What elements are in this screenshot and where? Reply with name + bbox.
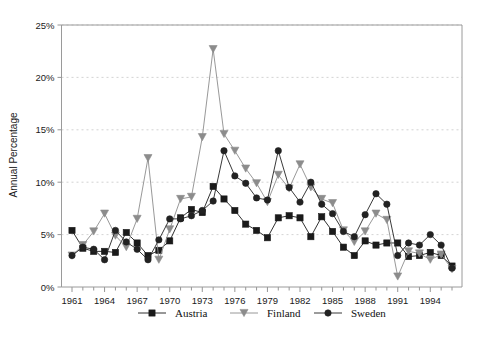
y-tick-label-10: 10% xyxy=(35,177,55,188)
data-point-austria-1984 xyxy=(319,214,325,220)
data-point-sweden-1989 xyxy=(373,191,379,197)
data-point-austria-1986 xyxy=(340,244,346,250)
data-point-austria-1985 xyxy=(329,228,335,234)
data-point-sweden-1983 xyxy=(308,179,314,185)
x-tick-label-1961: 1961 xyxy=(61,295,82,306)
data-point-sweden-1979 xyxy=(264,197,270,203)
x-tick-label-1991: 1991 xyxy=(387,295,408,306)
legend-label-finland: Finland xyxy=(267,307,301,319)
data-point-sweden-1967 xyxy=(134,246,140,252)
data-point-austria-1974 xyxy=(210,183,216,189)
data-point-austria-1988 xyxy=(362,238,368,244)
data-point-sweden-1988 xyxy=(362,211,368,217)
data-point-sweden-1992 xyxy=(405,240,411,246)
data-point-sweden-1972 xyxy=(188,213,194,219)
x-tick-label-1964: 1964 xyxy=(94,295,115,306)
data-point-sweden-1981 xyxy=(286,184,292,190)
annual-percentage-line-chart: 0%5%10%15%20%25% 19611964196719701973197… xyxy=(0,0,479,337)
data-point-sweden-1977 xyxy=(243,180,249,186)
data-point-austria-1989 xyxy=(373,242,379,248)
data-point-sweden-1987 xyxy=(351,233,357,239)
x-tick-label-1970: 1970 xyxy=(159,295,180,306)
data-point-sweden-1974 xyxy=(210,198,216,204)
data-point-sweden-1980 xyxy=(275,148,281,154)
data-point-austria-1990 xyxy=(384,240,390,246)
data-point-austria-1979 xyxy=(264,235,270,241)
data-point-sweden-1995 xyxy=(438,242,444,248)
data-point-sweden-1993 xyxy=(416,242,422,248)
x-tick-label-1982: 1982 xyxy=(289,295,310,306)
data-point-sweden-1985 xyxy=(329,210,335,216)
data-point-austria-1967 xyxy=(134,240,140,246)
data-point-austria-1987 xyxy=(351,252,357,258)
data-point-austria-1980 xyxy=(275,215,281,221)
data-point-austria-1975 xyxy=(221,196,227,202)
data-point-sweden-1969 xyxy=(156,237,162,243)
data-point-sweden-1963 xyxy=(91,246,97,252)
data-point-sweden-1976 xyxy=(232,173,238,179)
data-point-austria-1983 xyxy=(308,234,314,240)
y-tick-label-0: 0% xyxy=(41,282,55,293)
data-point-austria-1978 xyxy=(253,227,259,233)
x-tick-label-1979: 1979 xyxy=(257,295,278,306)
data-point-sweden-1975 xyxy=(221,148,227,154)
data-point-austria-1965 xyxy=(112,249,118,255)
data-point-sweden-1990 xyxy=(384,201,390,207)
data-point-sweden-1971 xyxy=(177,216,183,222)
legend-marker-circle-icon xyxy=(325,310,331,316)
x-tick-label-1994: 1994 xyxy=(420,295,441,306)
data-point-sweden-1966 xyxy=(123,239,129,245)
y-tick-label-25: 25% xyxy=(35,20,55,31)
data-point-sweden-1961 xyxy=(69,252,75,258)
data-point-sweden-1986 xyxy=(340,228,346,234)
data-point-austria-1981 xyxy=(286,213,292,219)
data-point-sweden-1982 xyxy=(297,199,303,205)
data-point-sweden-1991 xyxy=(395,252,401,258)
data-point-austria-1972 xyxy=(188,206,194,212)
data-point-austria-1966 xyxy=(123,229,129,235)
data-point-sweden-1965 xyxy=(112,227,118,233)
data-point-sweden-1978 xyxy=(253,195,259,201)
x-tick-label-1967: 1967 xyxy=(127,295,148,306)
y-axis-title: Annual Percentage xyxy=(8,112,19,198)
y-tick-label-20: 20% xyxy=(35,72,55,83)
data-point-sweden-1962 xyxy=(80,244,86,250)
x-tick-label-1973: 1973 xyxy=(192,295,213,306)
data-point-austria-1977 xyxy=(243,221,249,227)
data-point-austria-1970 xyxy=(167,238,173,244)
chart-container: 0%5%10%15%20%25% 19611964196719701973197… xyxy=(0,0,479,337)
x-tick-label-1985: 1985 xyxy=(322,295,343,306)
x-tick-label-1976: 1976 xyxy=(224,295,245,306)
data-point-austria-1961 xyxy=(69,227,75,233)
data-point-sweden-1964 xyxy=(101,257,107,263)
data-point-sweden-1973 xyxy=(199,207,205,213)
y-tick-label-15: 15% xyxy=(35,124,55,135)
data-point-sweden-1968 xyxy=(145,257,151,263)
legend-label-sweden: Sweden xyxy=(351,307,386,319)
legend-label-austria: Austria xyxy=(175,307,208,319)
data-point-sweden-1994 xyxy=(427,231,433,237)
x-tick-label-1988: 1988 xyxy=(355,295,376,306)
data-point-sweden-1996 xyxy=(449,265,455,271)
data-point-austria-1976 xyxy=(232,207,238,213)
legend-marker-square-icon xyxy=(149,310,155,316)
data-point-austria-1994 xyxy=(427,249,433,255)
data-point-sweden-1984 xyxy=(319,201,325,207)
data-point-austria-1982 xyxy=(297,215,303,221)
data-point-sweden-1970 xyxy=(167,216,173,222)
y-tick-label-5: 5% xyxy=(41,229,55,240)
chart-background xyxy=(0,0,479,337)
